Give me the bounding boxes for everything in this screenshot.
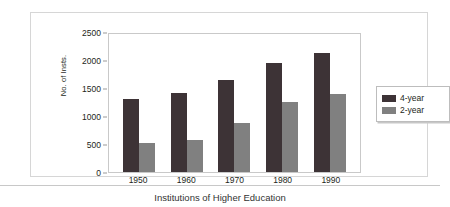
bar-2-year-1950: [139, 143, 155, 172]
legend-label: 4-year: [400, 93, 424, 103]
bar-group: [266, 34, 298, 172]
y-tick-label: 2500: [82, 28, 101, 38]
y-tick-mark: [103, 89, 107, 90]
x-axis-ticks: 19501960197019801990: [108, 175, 361, 191]
bar-group: [218, 34, 250, 172]
chart-frame: No. of Insts. 05001000150020002500 19501…: [30, 12, 428, 177]
y-tick-mark: [103, 173, 107, 174]
y-tick-mark: [103, 117, 107, 118]
bar-group: [314, 34, 346, 172]
y-tick-label: 500: [87, 140, 101, 150]
y-tick-mark: [103, 145, 107, 146]
x-tick-label: 1980: [267, 175, 299, 191]
legend-item-2-year[interactable]: 2-year: [382, 105, 444, 115]
x-tick-label: 1970: [218, 175, 250, 191]
legend-swatch-icon: [382, 107, 396, 114]
y-axis-ticks: 05001000150020002500: [65, 33, 107, 173]
y-tick-label: 1500: [82, 84, 101, 94]
bar-4-year-1960: [171, 93, 187, 172]
bar-4-year-1970: [218, 80, 234, 172]
bar-group: [171, 34, 203, 172]
x-tick-label: 1990: [315, 175, 347, 191]
y-tick-mark: [103, 61, 107, 62]
bar-4-year-1990: [314, 53, 330, 172]
y-tick-label: 1000: [82, 112, 101, 122]
bar-2-year-1990: [330, 94, 346, 172]
bar-2-year-1960: [187, 140, 203, 172]
bar-4-year-1950: [123, 99, 139, 172]
legend-label: 2-year: [400, 105, 424, 115]
x-tick-label: 1960: [170, 175, 202, 191]
y-tick-mark: [103, 33, 107, 34]
bar-group: [123, 34, 155, 172]
bar-2-year-1980: [282, 102, 298, 172]
bar-series-container: [109, 34, 360, 172]
bar-2-year-1970: [234, 123, 250, 172]
section-divider: [0, 185, 440, 186]
y-tick-label: 0: [96, 168, 101, 178]
plot-area: [108, 33, 361, 173]
chart-legend: 4-year2-year: [376, 86, 450, 122]
chart-caption: Institutions of Higher Education: [0, 192, 440, 203]
y-tick-label: 2000: [82, 56, 101, 66]
legend-swatch-icon: [382, 95, 396, 102]
bar-4-year-1980: [266, 63, 282, 172]
legend-item-4-year[interactable]: 4-year: [382, 93, 444, 103]
x-tick-label: 1950: [122, 175, 154, 191]
